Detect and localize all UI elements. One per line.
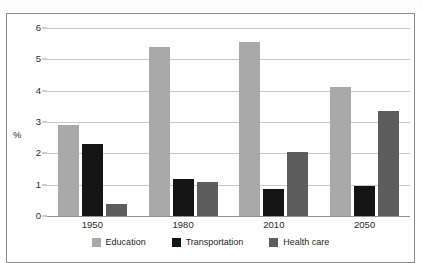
legend-swatch-education-icon bbox=[92, 238, 101, 247]
y-tick-label-4: 4 bbox=[36, 86, 41, 96]
y-tick-label-1: 1 bbox=[36, 180, 41, 190]
bar-health-care-1950[interactable] bbox=[106, 204, 127, 216]
x-label-2010: 2010 bbox=[229, 220, 320, 230]
y-tick-label-3: 3 bbox=[36, 117, 41, 127]
bar-transportation-2010[interactable] bbox=[263, 189, 284, 216]
bar-groups bbox=[47, 28, 410, 216]
legend-label-education: Education bbox=[106, 238, 146, 247]
legend-item-transportation[interactable]: Transportation bbox=[172, 238, 244, 247]
y-axis-title: % bbox=[13, 130, 21, 140]
bar-education-1980[interactable] bbox=[149, 47, 170, 216]
x-label-2050: 2050 bbox=[319, 220, 410, 230]
legend-item-health-care[interactable]: Health care bbox=[269, 238, 329, 247]
bar-education-2050[interactable] bbox=[330, 87, 351, 216]
bar-group-1980 bbox=[138, 28, 229, 216]
bar-health-care-1980[interactable] bbox=[197, 182, 218, 216]
legend-label-transportation: Transportation bbox=[186, 238, 244, 247]
x-label-1950: 1950 bbox=[47, 220, 138, 230]
x-label-1980: 1980 bbox=[138, 220, 229, 230]
bar-transportation-1980[interactable] bbox=[173, 179, 194, 216]
gridline-0-baseline: 0 bbox=[47, 216, 410, 217]
bar-health-care-2050[interactable] bbox=[378, 111, 399, 216]
y-tick-label-2: 2 bbox=[36, 149, 41, 159]
plot-area: 6 5 4 3 2 1 0 bbox=[47, 28, 410, 216]
scan-artifact-strip bbox=[0, 0, 423, 12]
bar-group-2010 bbox=[229, 28, 320, 216]
bar-transportation-2050[interactable] bbox=[354, 186, 375, 216]
bar-transportation-1950[interactable] bbox=[82, 144, 103, 216]
chart-legend: Education Transportation Health care bbox=[7, 238, 414, 247]
legend-swatch-transportation-icon bbox=[172, 238, 181, 247]
y-tick-label-0: 0 bbox=[36, 211, 41, 221]
legend-item-education[interactable]: Education bbox=[92, 238, 146, 247]
x-axis-labels: 1950 1980 2010 2050 bbox=[47, 220, 410, 230]
bar-group-2050 bbox=[319, 28, 410, 216]
bar-group-1950 bbox=[47, 28, 138, 216]
y-tick-label-5: 5 bbox=[36, 55, 41, 65]
y-tick-label-6: 6 bbox=[36, 23, 41, 33]
bar-chart-figure: % 6 5 4 3 2 1 0 bbox=[6, 13, 415, 263]
bar-health-care-2010[interactable] bbox=[287, 152, 308, 216]
bar-education-2010[interactable] bbox=[239, 42, 260, 216]
legend-swatch-health-care-icon bbox=[269, 238, 278, 247]
bar-education-1950[interactable] bbox=[58, 125, 79, 216]
legend-label-health-care: Health care bbox=[283, 238, 329, 247]
